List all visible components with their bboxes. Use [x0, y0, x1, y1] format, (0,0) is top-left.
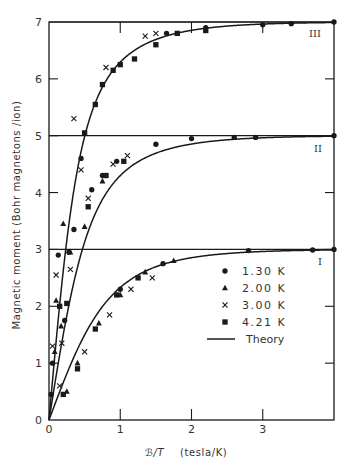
axis-ticks: 012345670123 [35, 16, 334, 436]
data-point [143, 34, 148, 39]
data-point [160, 261, 165, 266]
x-tick-label: 0 [46, 423, 53, 436]
data-point [60, 220, 66, 226]
data-point [68, 267, 73, 272]
data-point [289, 21, 294, 26]
data-point [86, 196, 91, 201]
legend-label: Theory [245, 333, 285, 346]
data-point [79, 167, 84, 172]
legend-triangle-icon [222, 285, 228, 291]
curve-label-III: III [309, 28, 321, 39]
data-point [78, 156, 83, 161]
theory-curve-II [49, 136, 334, 420]
data-point [103, 173, 108, 178]
data-point [128, 287, 133, 292]
data-point [93, 326, 98, 331]
saturation-reference-lines [49, 22, 334, 249]
data-points [48, 19, 336, 397]
y-tick-label: 6 [35, 73, 42, 86]
theory-curves [49, 23, 334, 420]
data-point [153, 31, 158, 36]
data-point [107, 312, 112, 317]
legend-item: 3.00 K [222, 299, 286, 312]
theory-curve-I [49, 250, 334, 420]
data-point [53, 297, 59, 303]
y-tick-label: 2 [35, 300, 42, 313]
data-point [56, 252, 61, 257]
legend-circle-icon [222, 268, 227, 273]
data-point [54, 272, 59, 277]
legend-square-icon [222, 319, 227, 324]
data-point [50, 344, 55, 349]
y-tick-label: 1 [35, 357, 42, 370]
legend-label: 3.00 K [242, 299, 286, 312]
data-point [52, 348, 58, 354]
data-point [203, 28, 208, 33]
legend-label: 1.30 K [242, 265, 286, 278]
legend: 1.30 K2.00 K3.00 K4.21 KTheory [207, 265, 286, 346]
y-tick-label: 5 [35, 130, 42, 143]
data-point [253, 135, 258, 140]
legend-item: Theory [207, 333, 285, 346]
curve-labels: IIIIII [309, 28, 322, 267]
data-point [125, 153, 130, 158]
data-point [75, 366, 80, 371]
series-4-21-K [57, 28, 208, 397]
data-point [135, 275, 140, 280]
data-point [82, 223, 88, 229]
data-point [189, 136, 194, 141]
x-tick-label: 3 [259, 423, 266, 436]
data-point [86, 204, 91, 209]
data-point [82, 349, 87, 354]
data-point [61, 392, 66, 397]
data-point [100, 82, 105, 87]
x-tick-label: 1 [117, 423, 124, 436]
magnetization-chart: 012345670123 IIIIII 1.30 K2.00 K3.00 K4.… [0, 0, 348, 468]
data-point [99, 178, 105, 184]
legend-item: 4.21 K [222, 316, 286, 329]
data-point [64, 301, 69, 306]
data-point [89, 187, 94, 192]
y-tick-label: 7 [35, 16, 42, 29]
data-point [331, 19, 336, 24]
data-point [96, 320, 102, 326]
data-point [71, 227, 76, 232]
data-point [103, 65, 108, 70]
data-point [75, 360, 81, 366]
data-point [121, 159, 126, 164]
data-point [58, 323, 64, 329]
y-tick-label: 3 [35, 243, 42, 256]
data-point [111, 162, 116, 167]
data-point [110, 68, 115, 73]
legend-label: 4.21 K [242, 316, 286, 329]
data-point [232, 135, 237, 140]
data-point [71, 116, 76, 121]
series-1-30-K [48, 19, 336, 397]
data-point [153, 142, 158, 147]
curve-label-I: I [318, 256, 322, 267]
data-point [164, 31, 169, 36]
legend-item: 1.30 K [222, 265, 286, 278]
legend-cross-icon [222, 302, 227, 307]
data-point [93, 102, 98, 107]
curve-label-II: II [314, 143, 322, 154]
y-axis-title: Magnetic moment (Bohr magnetons /ion) [11, 101, 22, 330]
data-point [246, 248, 251, 253]
data-point [153, 42, 158, 47]
data-point [310, 247, 315, 252]
legend-item: 2.00 K [222, 282, 286, 295]
data-point [114, 292, 119, 297]
data-point [62, 318, 67, 323]
x-axis-units: (tesla/K) [180, 447, 227, 458]
legend-label: 2.00 K [242, 282, 286, 295]
y-tick-label: 0 [35, 414, 42, 427]
data-point [48, 392, 53, 397]
data-point [175, 31, 180, 36]
y-tick-label: 4 [35, 187, 42, 200]
x-tick-label: 2 [188, 423, 195, 436]
data-point [150, 275, 155, 280]
data-point [118, 62, 123, 67]
data-point [132, 56, 137, 61]
x-axis-symbol: ℬ/T [145, 447, 164, 458]
data-point [82, 130, 87, 135]
